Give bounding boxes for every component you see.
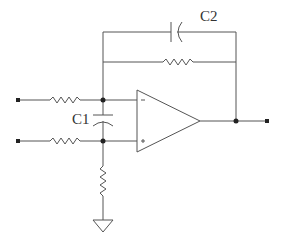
input-resistor-1 [18,97,137,103]
circuit-diagram: C2 C1 [0,0,284,242]
feedback-capacitor-c2 [103,22,236,42]
junction-node [101,139,106,144]
c2-label: C2 [200,8,218,25]
junction-node [101,98,106,103]
c1-label: C1 [72,111,90,128]
input-resistor-2 [18,138,137,144]
schematic-svg [0,0,284,242]
output-terminal [265,119,269,123]
ground-icon [93,220,113,232]
output-junction-node [234,119,239,124]
input-terminal-2 [16,139,20,143]
input-capacitor-c1 [93,100,113,141]
feedback-resistor [103,59,236,65]
opamp-triangle [137,90,200,152]
input-terminal-1 [16,98,20,102]
ground-resistor [100,141,106,220]
